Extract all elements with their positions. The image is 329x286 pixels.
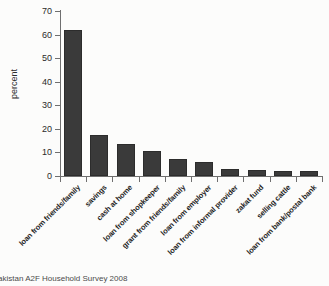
y-tick-label: 0 <box>30 171 52 181</box>
bar <box>64 30 82 176</box>
x-tick <box>86 177 87 182</box>
bar <box>221 169 239 176</box>
y-tick-label: 50 <box>30 53 52 63</box>
x-tick <box>191 177 192 182</box>
x-tick <box>322 177 323 182</box>
y-tick <box>55 129 60 130</box>
x-tick <box>217 177 218 182</box>
x-tick <box>60 177 61 182</box>
bar <box>143 151 161 176</box>
x-tick <box>243 177 244 182</box>
bar <box>90 135 108 176</box>
y-tick <box>55 58 60 59</box>
y-tick <box>55 105 60 106</box>
bar <box>195 162 213 176</box>
x-tick <box>112 177 113 182</box>
y-tick-label: 20 <box>30 124 52 134</box>
y-axis-line <box>60 10 61 177</box>
y-tick-label: 70 <box>30 6 52 16</box>
y-tick-label: 40 <box>30 77 52 87</box>
bar <box>117 144 135 176</box>
y-tick-label: 10 <box>30 147 52 157</box>
bar <box>274 171 292 176</box>
x-tick <box>165 177 166 182</box>
y-tick <box>55 35 60 36</box>
bar-chart-figure: percent 010203040506070loan from friends… <box>0 0 329 286</box>
y-axis-title: percent <box>9 69 19 99</box>
x-tick <box>139 177 140 182</box>
y-tick-label: 60 <box>30 30 52 40</box>
bar <box>248 170 266 176</box>
y-tick-label: 30 <box>30 100 52 110</box>
x-category-label: loan from friends/family <box>18 183 83 248</box>
x-tick <box>296 177 297 182</box>
y-tick <box>55 11 60 12</box>
bar <box>169 159 187 176</box>
bar <box>300 171 318 176</box>
x-tick <box>270 177 271 182</box>
y-tick <box>55 82 60 83</box>
source-caption: akistan A2F Household Survey 2008 <box>0 274 127 283</box>
y-tick <box>55 152 60 153</box>
